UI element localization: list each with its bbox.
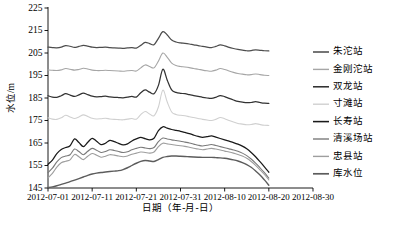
y-axis-tick-label: 145 — [28, 183, 43, 193]
x-axis-title: 日期（年-月-日） — [142, 202, 218, 213]
legend-label-朱沱站: 朱沱站 — [333, 45, 363, 56]
y-axis-title: 水位/m — [5, 82, 16, 113]
water-level-line-chart: 1451551651751851952052152252012-07-01201… — [0, 0, 395, 226]
series-line-库水位 — [48, 156, 269, 188]
y-axis-tick-label: 155 — [28, 160, 43, 170]
y-axis-tick-label: 205 — [28, 48, 43, 58]
chart-canvas: 1451551651751851952052152252012-07-01201… — [0, 0, 395, 226]
legend-label-长寿站: 长寿站 — [333, 115, 363, 126]
y-axis-tick-label: 225 — [28, 3, 43, 13]
series-line-长寿站 — [48, 127, 269, 173]
x-axis-tick-label: 2012-08-30 — [292, 192, 334, 202]
legend-label-清溪场站: 清溪场站 — [333, 132, 373, 143]
y-axis-tick-label: 195 — [28, 70, 43, 80]
legend-label-忠县站: 忠县站 — [333, 150, 363, 161]
legend-label-双龙站: 双龙站 — [333, 80, 363, 91]
x-axis-tick-label: 2012-07-01 — [27, 192, 69, 202]
series-line-双龙站 — [48, 69, 269, 103]
legend-label-库水位: 库水位 — [333, 167, 363, 178]
y-axis-tick-label: 215 — [28, 25, 43, 35]
y-axis-tick-label: 185 — [28, 93, 43, 103]
y-axis-tick-label: 165 — [28, 138, 43, 148]
series-line-金刚沱站 — [48, 53, 269, 76]
series-line-忠县站 — [48, 143, 269, 180]
series-line-寸滩站 — [48, 90, 269, 125]
legend-label-寸滩站: 寸滩站 — [333, 97, 363, 108]
legend-label-金刚沱站: 金刚沱站 — [333, 63, 373, 74]
x-axis-tick-label: 2012-07-11 — [71, 192, 113, 202]
x-axis-tick-label: 2012-07-31 — [160, 192, 202, 202]
x-axis-tick-label: 2012-08-10 — [204, 192, 246, 202]
y-axis-tick-label: 175 — [28, 115, 43, 125]
x-axis-tick-label: 2012-08-20 — [248, 192, 290, 202]
series-line-朱沱站 — [48, 32, 269, 51]
x-axis-tick-label: 2012-07-21 — [115, 192, 157, 202]
axis-frame — [48, 7, 313, 188]
